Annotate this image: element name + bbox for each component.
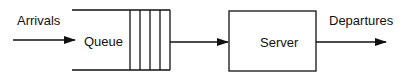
server-label: Server — [260, 35, 298, 50]
queue-label: Queue — [84, 34, 123, 49]
queue-diagram — [0, 0, 404, 79]
departures-label: Departures — [329, 13, 393, 28]
arrivals-label: Arrivals — [17, 13, 60, 28]
